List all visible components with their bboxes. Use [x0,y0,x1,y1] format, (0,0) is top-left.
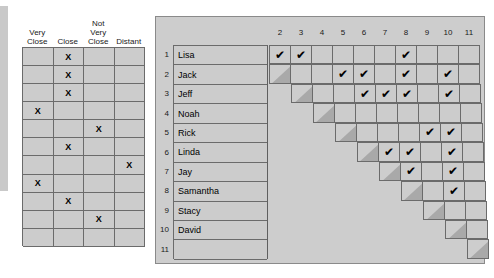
matrix-cell-r1-c2[interactable]: ✔ [269,45,291,64]
closeness-cell-r3-c2[interactable]: X [54,84,85,102]
participant-name-jay[interactable]: Jay [174,163,267,182]
matrix-cell-r8-c9[interactable] [422,181,444,200]
matrix-cell-r2-c8[interactable]: ✔ [395,64,417,83]
matrix-cell-r7-c11[interactable] [463,162,485,181]
matrix-cell-r1-c10[interactable] [437,45,459,64]
closeness-cell-r1-c4[interactable] [115,48,146,66]
matrix-cell-r2-c7[interactable] [374,64,396,83]
closeness-cell-r1-c2[interactable]: X [54,48,85,66]
closeness-cell-r11-c1[interactable] [23,229,54,247]
matrix-cell-r1-c11[interactable] [458,45,480,64]
matrix-cell-r6-c8[interactable]: ✔ [399,142,421,161]
matrix-cell-r2-c3[interactable] [290,64,312,83]
matrix-cell-r5-c9[interactable]: ✔ [419,123,441,142]
closeness-cell-r9-c3[interactable] [84,193,115,211]
matrix-cell-r9-c10[interactable] [444,201,466,220]
closeness-cell-r1-c1[interactable] [23,48,54,66]
matrix-cell-r8-c10[interactable]: ✔ [443,181,465,200]
matrix-row-9[interactable] [269,201,489,220]
closeness-cell-r6-c2[interactable]: X [54,138,85,156]
closeness-cell-r10-c2[interactable] [54,211,85,229]
closeness-row[interactable]: X [23,102,145,120]
closeness-cell-r10-c4[interactable] [115,211,146,229]
matrix-cell-r4-c5[interactable] [334,103,356,122]
closeness-cell-r7-c3[interactable] [84,156,115,174]
closeness-cell-r7-c2[interactable] [54,156,85,174]
matrix-cell-r2-c4[interactable] [311,64,333,83]
closeness-cell-r3-c1[interactable] [23,84,54,102]
closeness-cell-r7-c1[interactable] [23,156,54,174]
matrix-cells[interactable]: ✔✔✔✔✔✔✔✔✔✔✔✔✔✔✔✔✔✔✔ [269,45,489,259]
matrix-row-5[interactable]: ✔✔ [269,123,489,142]
closeness-cell-r6-c3[interactable] [84,138,115,156]
matrix-cell-r1-c4[interactable] [311,45,333,64]
matrix-cell-r3-c6[interactable]: ✔ [354,84,376,103]
matrix-cell-r7-c9[interactable] [421,162,443,181]
matrix-cell-r1-c5[interactable] [332,45,354,64]
matrix-cell-r3-c5[interactable] [333,84,355,103]
matrix-cell-r2-c6[interactable]: ✔ [353,64,375,83]
closeness-cell-r8-c1[interactable]: X [23,175,54,193]
matrix-row-6[interactable]: ✔✔✔ [269,142,489,161]
matrix-cell-r3-c4[interactable] [312,84,334,103]
closeness-cell-r5-c1[interactable] [23,120,54,138]
matrix-cell-r10-c11[interactable] [466,220,488,239]
closeness-cell-r4-c2[interactable] [54,102,85,120]
participant-name-samantha[interactable]: Samantha [174,182,267,201]
closeness-cell-r2-c1[interactable] [23,66,54,84]
matrix-cell-r5-c6[interactable] [356,123,378,142]
matrix-cell-r3-c8[interactable]: ✔ [396,84,418,103]
closeness-cell-r9-c2[interactable]: X [54,193,85,211]
participant-name-stacy[interactable]: Stacy [174,202,267,221]
matrix-row-7[interactable]: ✔✔ [269,162,489,181]
matrix-row-1[interactable]: ✔✔✔ [269,45,489,64]
matrix-row-11[interactable] [269,239,489,258]
matrix-cell-r7-c10[interactable]: ✔ [442,162,464,181]
matrix-cell-r5-c11[interactable] [461,123,483,142]
participant-name-lisa[interactable]: Lisa [174,46,267,65]
closeness-cell-r8-c4[interactable] [115,175,146,193]
matrix-cell-r1-c8[interactable]: ✔ [395,45,417,64]
matrix-cell-r2-c11[interactable] [458,64,480,83]
matrix-cell-r3-c7[interactable]: ✔ [375,84,397,103]
matrix-row-2[interactable]: ✔✔✔✔ [269,64,489,83]
closeness-row[interactable]: X [23,193,145,211]
participant-name-rick[interactable]: Rick [174,124,267,143]
matrix-cell-r7-c8[interactable]: ✔ [400,162,422,181]
matrix-cell-r6-c10[interactable]: ✔ [441,142,463,161]
closeness-cell-r2-c3[interactable] [84,66,115,84]
matrix-cell-r5-c10[interactable]: ✔ [440,123,462,142]
participant-name-empty[interactable] [174,240,267,259]
matrix-cell-r5-c7[interactable] [377,123,399,142]
matrix-cell-r1-c3[interactable]: ✔ [290,45,312,64]
closeness-cell-r5-c2[interactable] [54,120,85,138]
closeness-cell-r5-c4[interactable] [115,120,146,138]
matrix-cell-r2-c9[interactable] [416,64,438,83]
matrix-cell-r2-c5[interactable]: ✔ [332,64,354,83]
closeness-row[interactable]: X [23,120,145,138]
matrix-cell-r8-c11[interactable] [464,181,486,200]
matrix-cell-r4-c11[interactable] [460,103,482,122]
matrix-cell-r6-c9[interactable] [420,142,442,161]
closeness-cell-r11-c2[interactable] [54,229,85,247]
matrix-row-4[interactable] [269,103,489,122]
closeness-cell-r6-c1[interactable] [23,138,54,156]
closeness-cell-r4-c1[interactable]: X [23,102,54,120]
matrix-row-8[interactable]: ✔ [269,181,489,200]
closeness-cell-r6-c4[interactable] [115,138,146,156]
closeness-cell-r2-c2[interactable]: X [54,66,85,84]
matrix-cell-r4-c7[interactable] [376,103,398,122]
closeness-cell-r4-c4[interactable] [115,102,146,120]
closeness-row[interactable]: X [23,138,145,156]
matrix-cell-r4-c8[interactable] [397,103,419,122]
closeness-row[interactable]: X [23,84,145,102]
matrix-cell-r9-c11[interactable] [465,201,487,220]
closeness-cell-r3-c3[interactable] [84,84,115,102]
matrix-cell-r4-c6[interactable] [355,103,377,122]
matrix-cell-r2-c10[interactable]: ✔ [437,64,459,83]
matrix-cell-r6-c7[interactable]: ✔ [378,142,400,161]
matrix-row-3[interactable]: ✔✔✔✔ [269,84,489,103]
closeness-cell-r11-c4[interactable] [115,229,146,247]
matrix-cell-r3-c9[interactable] [417,84,439,103]
matrix-cell-r1-c9[interactable] [416,45,438,64]
